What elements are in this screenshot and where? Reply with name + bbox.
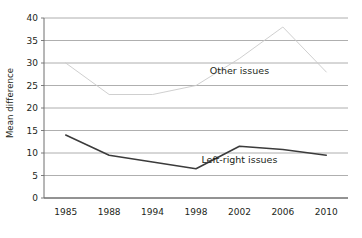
x-tick-label-1998: 1998 [185,207,208,217]
y-tick-label-0: 0 [32,193,38,203]
x-tick-label-1985: 1985 [54,207,77,217]
y-tick-label-35: 35 [27,36,38,46]
series-annotation-other-issues: Other issues [210,65,269,76]
series-annotation-left-right-issues: Left-right issues [201,154,277,165]
x-tick-labels-group: 1985198819941998200220062010 [54,207,338,217]
chart-figure: Mean difference 0510152025303540 1985198… [0,0,362,238]
x-tick-label-2006: 2006 [271,207,294,217]
series-line-other-issues [66,27,327,95]
gridlines-group [44,18,348,198]
y-tick-label-25: 25 [27,81,38,91]
x-tick-label-2002: 2002 [228,207,251,217]
y-tick-label-40: 40 [27,13,39,23]
line-chart-plot: 0510152025303540 19851988199419982002200… [0,0,362,238]
y-tick-label-5: 5 [32,171,38,181]
y-tick-label-20: 20 [27,103,39,113]
series-lines-group [66,27,327,169]
x-tick-label-2010: 2010 [315,207,338,217]
series-line-left-right-issues [66,135,327,169]
series-annotations-group: Other issuesLeft-right issues [201,65,277,165]
y-tick-label-10: 10 [27,148,39,158]
x-tick-label-1988: 1988 [98,207,121,217]
y-tick-labels-group: 0510152025303540 [27,13,44,203]
y-tick-label-15: 15 [27,126,38,136]
y-tick-label-30: 30 [27,58,39,68]
x-tick-label-1994: 1994 [141,207,164,217]
